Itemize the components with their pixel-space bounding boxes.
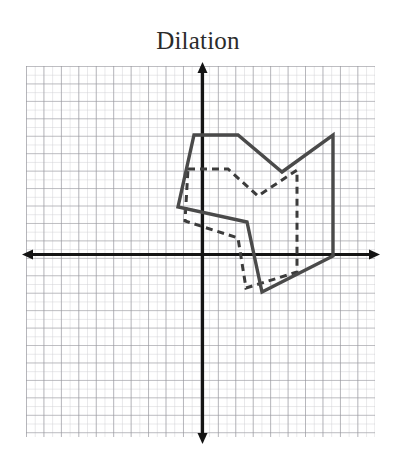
coordinate-plane — [0, 0, 396, 464]
grid-major-lines — [26, 66, 375, 437]
page-title: Dilation — [0, 26, 396, 56]
figure-canvas: Dilation — [0, 0, 396, 464]
